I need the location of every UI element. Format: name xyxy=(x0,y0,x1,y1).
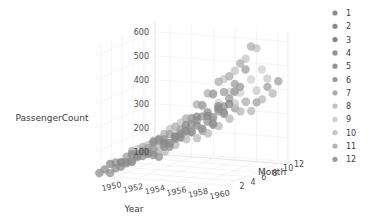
legend-swatch-dot xyxy=(332,64,337,69)
data-point xyxy=(149,151,157,159)
z-axis-tick: 12 xyxy=(294,160,304,169)
data-point xyxy=(198,101,206,109)
legend-label: 4 xyxy=(346,49,351,58)
data-point xyxy=(247,107,255,115)
data-point xyxy=(263,74,271,82)
data-point xyxy=(269,89,277,97)
z-axis-tick: 4 xyxy=(250,178,255,187)
data-point xyxy=(220,88,228,96)
legend-swatch-dot xyxy=(332,104,337,109)
x-axis-tick: 1958 xyxy=(187,187,209,200)
scatter3d-chart: 1002003004005006001950195219541956195819… xyxy=(0,0,378,221)
data-point xyxy=(95,169,103,177)
x-axis-tick: 1956 xyxy=(166,185,188,198)
legend-item[interactable]: 9 xyxy=(332,115,351,124)
legend-item[interactable]: 6 xyxy=(332,76,351,85)
z-axis-title: Month xyxy=(258,167,286,177)
legend-swatch-dot xyxy=(332,157,337,162)
data-point xyxy=(252,87,260,95)
data-point xyxy=(149,138,157,146)
data-point xyxy=(209,90,217,98)
legend-swatch-dot xyxy=(332,90,337,95)
data-point xyxy=(214,105,222,113)
data-point xyxy=(182,127,190,135)
axis-titles-layer: PassengerCountYearMonth xyxy=(16,113,287,214)
data-point xyxy=(242,97,250,105)
legend-swatch-dot xyxy=(332,10,337,15)
legend-label: 11 xyxy=(346,142,356,151)
legend-swatch-dot xyxy=(332,24,337,29)
x-axis-tick: 1950 xyxy=(101,180,123,193)
data-point xyxy=(230,87,238,95)
legend-swatch-dot xyxy=(332,143,337,148)
data-point xyxy=(203,117,211,125)
data-point xyxy=(214,78,222,86)
x-axis-title: Year xyxy=(123,204,143,214)
data-point xyxy=(117,163,125,171)
legend-item[interactable]: 7 xyxy=(332,89,351,98)
legend-label: 2 xyxy=(346,22,351,31)
data-point xyxy=(247,75,255,83)
y-axis-tick: 200 xyxy=(134,124,149,133)
legend-swatch-dot xyxy=(332,130,337,135)
legend-label: 1 xyxy=(346,9,351,18)
data-point xyxy=(258,95,266,103)
legend[interactable]: 123456789101112 xyxy=(332,9,356,164)
y-axis-tick: 300 xyxy=(134,100,149,109)
legend-label: 3 xyxy=(346,36,351,45)
y-axis-tick: 500 xyxy=(134,52,149,61)
legend-item[interactable]: 3 xyxy=(332,36,351,45)
legend-label: 12 xyxy=(346,155,356,164)
legend-label: 7 xyxy=(346,89,351,98)
plot-canvas: 1002003004005006001950195219541956195819… xyxy=(0,0,378,221)
legend-label: 9 xyxy=(346,115,351,124)
legend-swatch-dot xyxy=(332,50,337,55)
legend-label: 8 xyxy=(346,102,351,111)
data-point xyxy=(193,112,201,120)
data-point xyxy=(225,72,233,80)
legend-swatch-dot xyxy=(332,77,337,82)
data-point xyxy=(192,121,200,129)
legend-item[interactable]: 11 xyxy=(332,142,356,151)
y-axis-tick: 600 xyxy=(134,28,149,37)
y-axis-tick: 100 xyxy=(134,148,149,157)
y-axis-title: PassengerCount xyxy=(16,113,89,123)
data-point xyxy=(241,65,249,73)
legend-label: 6 xyxy=(346,76,351,85)
data-point xyxy=(274,77,282,85)
data-point xyxy=(263,83,271,91)
legend-item[interactable]: 12 xyxy=(332,155,356,164)
legend-item[interactable]: 10 xyxy=(332,129,356,138)
legend-item[interactable]: 1 xyxy=(332,9,351,18)
legend-item[interactable]: 5 xyxy=(332,62,351,71)
legend-label: 5 xyxy=(346,62,351,71)
data-point xyxy=(171,133,179,141)
data-point xyxy=(247,42,255,50)
data-point xyxy=(258,65,266,73)
x-axis-tick: 1952 xyxy=(122,182,144,195)
legend-label: 10 xyxy=(346,129,356,138)
legend-swatch-dot xyxy=(332,37,337,42)
data-point xyxy=(106,169,114,177)
x-axis-tick: 1960 xyxy=(209,188,231,201)
legend-item[interactable]: 2 xyxy=(332,22,351,31)
data-point xyxy=(225,100,233,108)
legend-item[interactable]: 4 xyxy=(332,49,351,58)
legend-item[interactable]: 8 xyxy=(332,102,351,111)
data-point xyxy=(160,143,168,151)
data-point xyxy=(236,107,244,115)
y-axis-tick: 400 xyxy=(134,76,149,85)
legend-swatch-dot xyxy=(332,117,337,122)
x-axis-tick: 1954 xyxy=(144,183,166,196)
data-point xyxy=(128,157,136,165)
z-axis-tick: 2 xyxy=(240,182,245,191)
points-layer xyxy=(95,42,282,177)
